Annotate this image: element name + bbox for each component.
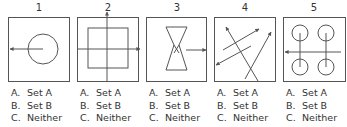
- option-letter: A.: [217, 87, 233, 100]
- option-letter: C.: [149, 112, 165, 125]
- panel-number: 1: [8, 2, 70, 13]
- answer-options: A.Set A B.Set B C.Neither: [217, 87, 268, 125]
- panel-3: 3 A.Set A B.Set B C.Neither: [146, 0, 210, 127]
- option-c[interactable]: C.Neither: [149, 112, 200, 125]
- option-label: Neither: [96, 112, 131, 123]
- option-label: Neither: [302, 112, 337, 123]
- option-label: Neither: [27, 112, 62, 123]
- option-c[interactable]: C.Neither: [11, 112, 62, 125]
- option-label: Set A: [302, 87, 327, 98]
- answer-options: A.Set A B.Set B C.Neither: [149, 87, 200, 125]
- option-a[interactable]: A.Set A: [80, 87, 131, 100]
- option-label: Set A: [165, 87, 190, 98]
- option-label: Set B: [165, 100, 190, 111]
- hourglass-figure: [146, 17, 210, 84]
- diagonal-arrows-figure: [214, 17, 278, 84]
- option-letter: A.: [80, 87, 96, 100]
- answer-options: A.Set A B.Set B C.Neither: [80, 87, 131, 125]
- option-label: Set A: [27, 87, 52, 98]
- panel-number: 4: [214, 2, 276, 13]
- option-label: Neither: [233, 112, 268, 123]
- option-label: Set A: [96, 87, 121, 98]
- option-c[interactable]: C.Neither: [286, 112, 337, 125]
- option-label: Set B: [27, 100, 52, 111]
- option-label: Set A: [233, 87, 258, 98]
- option-a[interactable]: A.Set A: [217, 87, 268, 100]
- option-letter: C.: [11, 112, 27, 125]
- answer-options: A.Set A B.Set B C.Neither: [286, 87, 337, 125]
- panel-number: 3: [146, 2, 208, 13]
- option-letter: B.: [149, 100, 165, 113]
- option-b[interactable]: B.Set B: [217, 100, 268, 113]
- four-circles-figure: [283, 17, 347, 84]
- option-b[interactable]: B.Set B: [286, 100, 337, 113]
- option-a[interactable]: A.Set A: [286, 87, 337, 100]
- option-c[interactable]: C.Neither: [80, 112, 131, 125]
- option-letter: A.: [149, 87, 165, 100]
- option-letter: C.: [80, 112, 96, 125]
- panel-2: 2 A.Set A B.Set B C.Neither: [77, 0, 141, 127]
- option-label: Neither: [165, 112, 200, 123]
- option-letter: C.: [217, 112, 233, 125]
- option-letter: B.: [286, 100, 302, 113]
- option-label: Set B: [96, 100, 121, 111]
- square-axes-figure: [77, 17, 141, 84]
- panel-4: 4 A.Set A B.Set B C.Neither: [214, 0, 278, 127]
- option-b[interactable]: B.Set B: [80, 100, 131, 113]
- circle-arrow-figure: [8, 17, 72, 84]
- panel-number: 5: [283, 2, 345, 13]
- option-a[interactable]: A.Set A: [149, 87, 200, 100]
- option-label: Set B: [233, 100, 258, 111]
- panel-number: 2: [77, 2, 139, 13]
- option-b[interactable]: B.Set B: [11, 100, 62, 113]
- option-b[interactable]: B.Set B: [149, 100, 200, 113]
- option-letter: B.: [217, 100, 233, 113]
- option-a[interactable]: A.Set A: [11, 87, 62, 100]
- option-letter: B.: [11, 100, 27, 113]
- answer-options: A.Set A B.Set B C.Neither: [11, 87, 62, 125]
- option-letter: B.: [80, 100, 96, 113]
- option-letter: A.: [286, 87, 302, 100]
- option-letter: A.: [11, 87, 27, 100]
- option-letter: C.: [286, 112, 302, 125]
- option-c[interactable]: C.Neither: [217, 112, 268, 125]
- panel-5: 5 A.Set A B.Set B C.Neither: [283, 0, 347, 127]
- panel-1: 1 A.Set A B.Set B C.Neither: [8, 0, 72, 127]
- option-label: Set B: [302, 100, 327, 111]
